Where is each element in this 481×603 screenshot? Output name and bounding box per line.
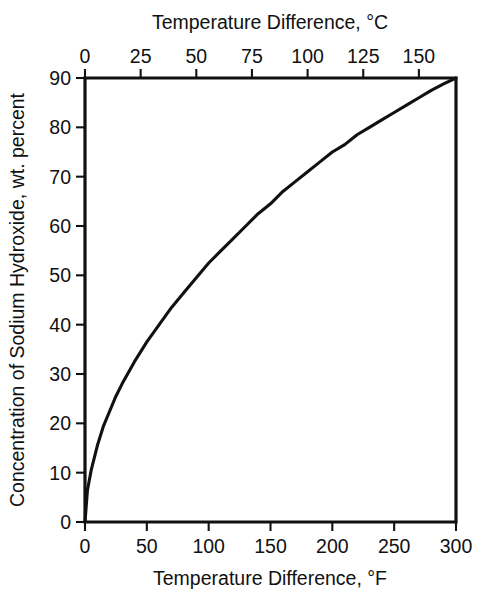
bottom-axis-title: Temperature Difference, °F	[153, 567, 387, 589]
y-tick-label: 20	[49, 412, 71, 434]
x-tick-label: 100	[192, 535, 225, 557]
x-top-tick-label: 50	[185, 45, 207, 67]
x-top-tick-label: 150	[403, 45, 436, 67]
data-curve	[85, 78, 456, 522]
x-top-tick-label: 125	[347, 45, 380, 67]
y-tick-label: 90	[49, 67, 71, 89]
y-tick-label: 30	[49, 363, 71, 385]
chart-svg: 0255075100125150 050100150200250300 0102…	[0, 0, 481, 603]
chart-figure: 0255075100125150 050100150200250300 0102…	[0, 0, 481, 603]
y-tick-label: 40	[49, 314, 71, 336]
x-tick-label: 250	[378, 535, 411, 557]
y-tick-label: 80	[49, 116, 71, 138]
left-axis: 0102030405060708090	[49, 67, 85, 533]
x-tick-label: 200	[316, 535, 349, 557]
top-axis-title: Temperature Difference, °C	[152, 11, 388, 33]
x-tick-label: 150	[254, 535, 287, 557]
x-top-tick-label: 100	[291, 45, 324, 67]
y-tick-label: 70	[49, 166, 71, 188]
x-tick-label: 50	[136, 535, 158, 557]
top-axis: 0255075100125150	[80, 45, 436, 78]
y-tick-label: 10	[49, 462, 71, 484]
data-series-group	[85, 78, 456, 522]
x-top-tick-label: 25	[130, 45, 152, 67]
y-axis-title: Concentration of Sodium Hydroxide, wt. p…	[6, 92, 28, 507]
plot-frame	[85, 78, 456, 522]
bottom-axis: 050100150200250300	[80, 522, 473, 557]
x-tick-label: 300	[440, 535, 473, 557]
x-tick-label: 0	[80, 535, 91, 557]
y-tick-label: 50	[49, 264, 71, 286]
x-top-tick-label: 75	[241, 45, 263, 67]
y-tick-label: 60	[49, 215, 71, 237]
x-top-tick-label: 0	[80, 45, 91, 67]
y-tick-label: 0	[60, 511, 71, 533]
